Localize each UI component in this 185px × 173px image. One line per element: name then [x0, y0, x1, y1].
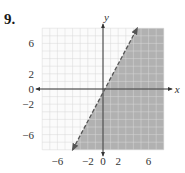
x-tick-label: 2: [115, 155, 121, 167]
x-axis-label: x: [174, 83, 180, 95]
x-tick-label: −6: [52, 155, 64, 167]
x-tick-label: 0: [100, 155, 106, 167]
x-tick-label: 6: [146, 155, 152, 167]
x-tick-label: −2: [82, 155, 94, 167]
y-tick-label: −6: [22, 129, 34, 141]
y-axis-label: y: [103, 11, 109, 23]
y-tick-label: 0: [29, 83, 35, 95]
y-tick-label: 6: [29, 37, 35, 49]
y-tick-label: −2: [22, 98, 34, 110]
inequality-graph: xy−6−2026620−2−6: [0, 0, 185, 173]
y-tick-label: 2: [29, 68, 35, 80]
